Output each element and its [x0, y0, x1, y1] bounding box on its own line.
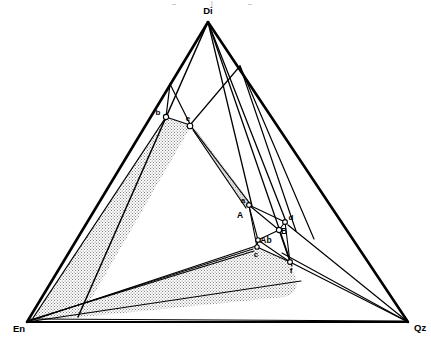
point-label-b: b: [156, 108, 161, 117]
marker-point-f: [288, 260, 293, 265]
marker-point-e: [187, 123, 193, 129]
crop-mark-right: –: [248, 0, 252, 7]
marker-point-b: [163, 114, 168, 119]
crop-marks: – | –: [172, 0, 252, 8]
line-e-to-crest: [190, 66, 240, 125]
line-f-to-qz: [290, 262, 408, 322]
line-join-to-qz: [282, 253, 408, 322]
line-e-down: [193, 130, 246, 208]
marker-point-a: [247, 203, 252, 208]
point-label-c: c: [254, 250, 259, 259]
marker-point-c: [255, 245, 259, 249]
point-label-a: a: [241, 196, 246, 205]
crop-mark-center: |: [211, 0, 213, 8]
vertex-label-en: En: [13, 323, 25, 334]
crop-mark-left: –: [172, 0, 176, 7]
point-label-B: B: [281, 226, 287, 236]
point-label-Ab: Ab: [260, 235, 271, 245]
line-qz-up-left: [288, 225, 408, 322]
vertex-label-qz: Qz: [414, 322, 426, 333]
point-label-f: f: [290, 266, 293, 275]
point-label-A: A: [237, 210, 243, 220]
point-label-e: e: [186, 114, 191, 123]
line-basal-inner: [31, 319, 406, 321]
phase-diagram-figure: Di En Qz b e a A d B Ab c f – | –: [0, 0, 431, 341]
point-label-d: d: [289, 213, 294, 222]
marker-point-d: [283, 220, 288, 225]
ternary-diagram-svg: Di En Qz b e a A d B Ab c f – | –: [0, 0, 431, 341]
